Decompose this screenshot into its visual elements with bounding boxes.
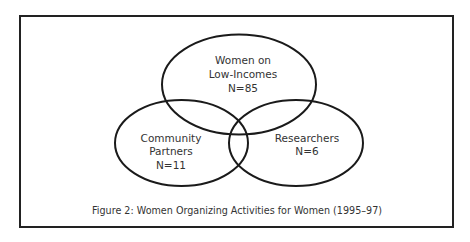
venn-diagram: Women on Low-Incomes N=85 Community Part…	[0, 0, 470, 242]
label-community-count: N=11	[156, 159, 186, 171]
label-researchers-count: N=6	[295, 145, 319, 157]
label-community-line2: Partners	[149, 145, 193, 157]
label-community-line1: Community	[141, 132, 202, 144]
figure-caption: Figure 2: Women Organizing Activities fo…	[92, 205, 382, 216]
label-women-line1: Women on	[215, 54, 271, 66]
label-women-count: N=85	[228, 82, 258, 94]
label-researchers-line1: Researchers	[275, 132, 339, 144]
label-women-line2: Low-Incomes	[209, 68, 278, 80]
